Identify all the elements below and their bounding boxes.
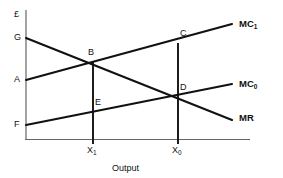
curve-label-mc1-text: MC — [239, 18, 254, 29]
y-point-label-F: F — [14, 120, 20, 129]
curve-label-mc0: MC0 — [239, 79, 257, 89]
mc0-curve — [26, 84, 232, 125]
y-axis-currency-label: £ — [14, 10, 19, 19]
point-label-D: D — [180, 83, 187, 92]
x-tick-label-x1-subscript: 1 — [93, 149, 97, 156]
economics-diagram: £ G A F B D C E MC1 MC0 MR X1 X0 Output — [0, 0, 283, 178]
curve-label-mc1: MC1 — [239, 19, 257, 29]
mr-curve — [26, 38, 232, 120]
x-tick-label-x0: X0 — [172, 146, 182, 155]
curve-label-mr: MR — [239, 113, 254, 122]
x-axis-caption: Output — [112, 163, 139, 173]
point-label-B: B — [88, 48, 94, 57]
curve-label-mc1-subscript: 1 — [254, 23, 258, 30]
curve-label-mc0-subscript: 0 — [254, 83, 258, 90]
y-point-label-A: A — [14, 75, 20, 84]
y-point-label-G: G — [14, 33, 21, 42]
x-tick-label-x1: X1 — [87, 146, 97, 155]
mc1-curve — [26, 24, 232, 80]
x-tick-label-x0-subscript: 0 — [178, 149, 182, 156]
curve-label-mc0-text: MC — [239, 78, 254, 89]
curve-label-mr-text: MR — [239, 112, 254, 123]
point-label-E: E — [95, 98, 101, 107]
point-label-C: C — [180, 29, 187, 38]
